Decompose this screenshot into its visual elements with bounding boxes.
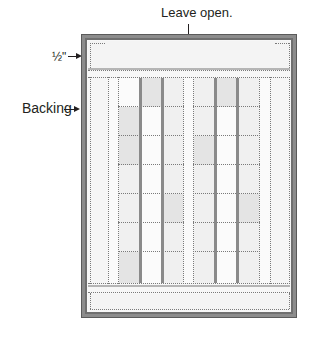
backing-arrow-shaft (64, 109, 74, 110)
right-block-cell (216, 194, 236, 223)
right-block-cell (238, 194, 259, 223)
seam-v-5 (193, 77, 194, 284)
right-block-row-seam (193, 135, 260, 136)
seam-v-6 (259, 77, 260, 284)
seam-v-4 (183, 77, 184, 284)
left-block-cell (141, 194, 161, 223)
left-block-cell (141, 107, 161, 136)
left-sash-strip (108, 78, 118, 283)
top-band-seam-left (90, 43, 91, 68)
top-band (88, 41, 290, 68)
left-block-cell (141, 252, 161, 283)
left-block-row-seam (118, 106, 184, 107)
bottom-band (88, 294, 290, 310)
left-block-cell (141, 136, 161, 165)
bottom-band-seam-left (90, 293, 91, 309)
right-block-cell (194, 165, 214, 194)
seam-v-7 (270, 77, 271, 284)
right-block-row-seam (193, 193, 260, 194)
right-block-cell (194, 136, 214, 165)
right-block-cell (216, 107, 236, 136)
right-block-cell (216, 136, 236, 165)
left-block-cell (119, 165, 139, 194)
right-block-cell (216, 78, 236, 107)
bottom-band-seam-bottom (90, 309, 289, 310)
left-block-row-seam (118, 164, 184, 165)
right-block-cell (194, 194, 214, 223)
center-sash-strip (184, 78, 193, 283)
left-block-cell (141, 78, 161, 107)
sash-line-e-f (236, 78, 239, 283)
left-block-cell (163, 107, 183, 136)
left-block-row-seam (118, 135, 184, 136)
right-block-row-seam (193, 251, 260, 252)
left-block-cell (163, 223, 183, 252)
seam-allowance-label: ½" (52, 50, 66, 64)
right-block-cell (216, 165, 236, 194)
top-band-seam-right (289, 43, 290, 68)
left-block-cell (119, 107, 139, 136)
left-block-cell (119, 223, 139, 252)
backing-label: Backing (22, 101, 72, 115)
left-block-cell (119, 78, 139, 107)
right-block-row-seam (193, 222, 260, 223)
left-block-cell (141, 223, 161, 252)
sash-line-b-c (161, 78, 164, 283)
left-block-cell (163, 252, 183, 283)
left-border-strip (90, 78, 108, 283)
right-block-cell (238, 223, 259, 252)
right-block-cell (238, 252, 259, 283)
right-block-cell (194, 78, 214, 107)
right-block-cell (238, 165, 259, 194)
right-block-cell (238, 78, 259, 107)
left-block-cell (119, 252, 139, 283)
seam-v-1 (90, 77, 91, 284)
seam-v-2 (108, 77, 109, 284)
right-block-cell (238, 136, 259, 165)
left-block-cell (119, 136, 139, 165)
left-block-cell (141, 165, 161, 194)
left-block-cell (163, 165, 183, 194)
top-border-seam (88, 70, 290, 71)
right-block-cell (216, 252, 236, 283)
right-block-cell (238, 107, 259, 136)
left-block-row-seam (118, 251, 184, 252)
left-block-cell (119, 194, 139, 223)
right-block-cell (194, 252, 214, 283)
left-block-row-seam (118, 222, 184, 223)
right-block-cell (194, 107, 214, 136)
left-block-row-seam (118, 193, 184, 194)
right-block-row-seam (193, 164, 260, 165)
top-band-seam-top-right (275, 43, 289, 44)
bottom-border-strip (88, 285, 290, 287)
left-block-cell (163, 136, 183, 165)
right-block-row-seam (193, 106, 260, 107)
left-block-cell (163, 194, 183, 223)
sash-line-a-b (139, 78, 142, 283)
backing-arrowhead-icon (74, 106, 80, 112)
left-block-cell (163, 78, 183, 107)
right-sash-strip (260, 78, 270, 283)
sash-line-d-e (214, 78, 217, 283)
top-band-seam-top-left (90, 43, 105, 44)
seam-v-8 (289, 77, 290, 284)
grid-bottom-seam (88, 283, 290, 284)
bottom-border-seam (88, 292, 290, 293)
right-block-cell (194, 223, 214, 252)
right-border-strip (270, 78, 289, 283)
bottom-band-seam-right (289, 293, 290, 309)
leave-open-label: Leave open. (161, 6, 233, 20)
seam-arrow-left-shaft (68, 56, 76, 57)
right-block-cell (216, 223, 236, 252)
seam-v-3 (118, 77, 119, 284)
